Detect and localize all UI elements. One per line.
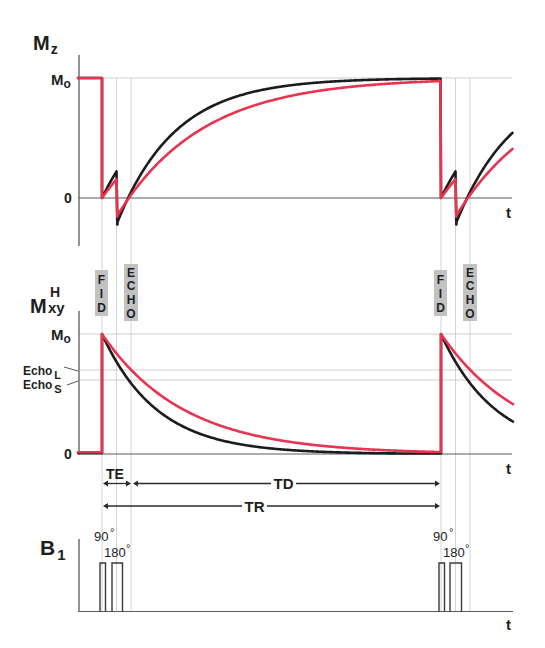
mxy-curve-long-t2 [78, 334, 513, 452]
mxy-zero-tick-label: 0 [64, 446, 72, 462]
td-label: TD [274, 475, 294, 492]
degree-symbol: ° [465, 542, 469, 554]
mz-axis-label: Mz [33, 32, 58, 57]
interval-annotations: TE TD TR [103, 466, 440, 515]
svg-text:H: H [127, 293, 136, 307]
mxy-curve-short-t2 [78, 334, 513, 454]
mz-zero-tick-label: 0 [64, 190, 72, 206]
svg-text:I: I [100, 287, 103, 301]
b1-t-axis-label: t [506, 616, 511, 633]
svg-text:O: O [126, 307, 135, 321]
echo-marker-1: E C H O [124, 264, 138, 321]
svg-text:D: D [97, 301, 106, 315]
degree-symbol: ° [449, 526, 453, 538]
svg-text:E: E [466, 266, 474, 280]
svg-text:C: C [466, 279, 475, 293]
svg-text:D: D [436, 301, 445, 315]
mz-mo-tick-label: Mo [51, 71, 71, 91]
pulse-90-label-1: 90 [94, 529, 108, 544]
te-label: TE [106, 466, 124, 482]
mxy-t-axis-label: t [506, 460, 511, 477]
echo-marker-2: E C H O [463, 264, 477, 321]
pulse-90-2 [439, 563, 445, 612]
signal-markers: F I D E C H O F I D E C H O [95, 264, 477, 321]
spin-echo-diagram: Mz Mo 0 t F I D E C H O F I D [0, 0, 545, 648]
mz-curve-short-t1 [78, 78, 513, 225]
svg-text:C: C [127, 279, 136, 293]
pulse-90-label-2: 90 [433, 529, 447, 544]
pulse-180-1 [112, 563, 123, 612]
svg-text:E: E [127, 266, 135, 280]
svg-text:O: O [465, 307, 474, 321]
pulse-180-label-2: 180 [443, 545, 465, 560]
echo-l-leader [64, 367, 78, 371]
tr-label: TR [245, 498, 265, 515]
svg-text:H: H [466, 293, 475, 307]
svg-text:I: I [439, 287, 442, 301]
b1-panel: B1 90 ° 180 ° 90 ° 180 ° t [40, 526, 513, 633]
degree-symbol: ° [126, 542, 130, 554]
fid-marker-2: F I D [434, 270, 447, 316]
fid-marker-1: F I D [95, 270, 108, 316]
svg-text:F: F [98, 273, 105, 287]
timing-guides [102, 78, 470, 612]
mz-curve-long-t1 [78, 78, 513, 217]
mxy-axis-label-sub: xy [48, 299, 65, 316]
svg-text:F: F [437, 273, 444, 287]
b1-axis-label: B1 [40, 536, 66, 563]
pulse-180-label-1: 180 [104, 545, 126, 560]
echo-s-leader [67, 381, 78, 385]
mz-t-axis-label: t [506, 204, 511, 221]
mxy-axis-label: M [30, 295, 47, 317]
degree-symbol: ° [110, 526, 114, 538]
mxy-axis-label-sup: H [50, 284, 60, 300]
mxy-mo-tick-label: Mo [51, 326, 71, 346]
pulse-90-1 [100, 563, 106, 612]
tr-arrow [103, 503, 440, 509]
